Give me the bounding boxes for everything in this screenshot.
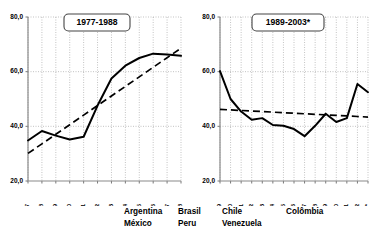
y-tick-label: 80,0 — [10, 13, 23, 21]
legend-column-1: Brasil Peru — [178, 206, 201, 229]
chart-panel-1989-2003: 20,040,060,080,0 19891990199119921993199… — [190, 0, 380, 241]
panel-1-title-box: 1977-1988 — [64, 14, 130, 31]
y-tick-label: 40,0 — [10, 122, 23, 130]
panel-2-title-box: 1989-2003* — [252, 14, 324, 31]
panel-1-gridlines — [28, 17, 181, 181]
legend-column-3: Colômbia — [286, 206, 323, 218]
legend-label-chile: Chile — [222, 206, 262, 218]
legend-column-0: Argentina México — [124, 206, 162, 229]
panel-1-y-axis-labels: 20,040,060,080,0 — [10, 13, 28, 185]
chart-panel-1977-1988: 20,040,060,080,0 19771978197919801981198… — [0, 0, 190, 241]
legend-label-peru: Peru — [178, 218, 201, 230]
legend-label-argentina: Argentina — [124, 206, 162, 218]
panel-1-trend-line — [28, 48, 181, 153]
y-tick-label: 20,0 — [10, 177, 23, 185]
chart-figure: 20,040,060,080,0 19771978197919801981198… — [0, 0, 380, 241]
panel-2-gridlines — [220, 17, 368, 181]
panel-2-x-axis-labels: 1989199019911992199319941995199619971998… — [216, 181, 370, 206]
legend-label-venezuela: Venezuela — [222, 218, 262, 230]
legend-column-2: Chile Venezuela — [222, 206, 262, 229]
y-tick-label: 80,0 — [202, 13, 215, 21]
panel-2-title: 1989-2003* — [266, 17, 311, 27]
y-tick-label: 40,0 — [202, 122, 215, 130]
y-tick-label: 20,0 — [202, 177, 215, 185]
legend-label-colombia: Colômbia — [286, 206, 323, 218]
panel-1-svg: 20,040,060,080,0 19771978197919801981198… — [0, 0, 190, 206]
panel-1-title: 1977-1988 — [76, 17, 117, 27]
y-tick-label: 60,0 — [10, 67, 23, 75]
y-tick-label: 60,0 — [202, 67, 215, 75]
legend-label-brasil: Brasil — [178, 206, 201, 218]
panel-2-y-axis-labels: 20,040,060,080,0 — [202, 13, 220, 185]
panel-1-data-line — [28, 54, 181, 141]
panel-2-svg: 20,040,060,080,0 19891990199119921993199… — [190, 0, 380, 206]
panel-1-x-axis-labels: 1977197819791980198119821983198419851986… — [24, 181, 183, 206]
chart-legend: Argentina México Brasil Peru Chile Venez… — [0, 206, 380, 241]
legend-label-mexico: México — [124, 218, 162, 230]
